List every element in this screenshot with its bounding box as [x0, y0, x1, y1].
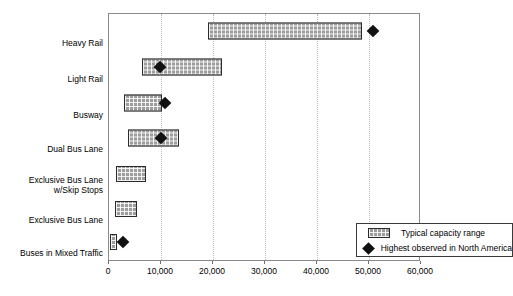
y-label-dual-bus-lane: Dual Bus Lane — [0, 144, 103, 154]
x-tick-30000 — [264, 261, 265, 264]
x-tick-label-40000: 40,000 — [303, 266, 329, 276]
x-tick-50000 — [368, 261, 369, 264]
bar-exclusive-bus-lane-skip-stops — [116, 166, 146, 182]
marker-buses-in-mixed-traffic — [117, 236, 130, 249]
x-tick-0 — [108, 261, 109, 264]
x-tick-label-50000: 50,000 — [355, 266, 381, 276]
gridline-40000 — [317, 14, 318, 260]
plot-area: Typical capacity range Highest observed … — [108, 13, 420, 261]
x-tick-label-20000: 20,000 — [199, 266, 225, 276]
legend-label-highest-observed: Highest observed in North America — [381, 243, 512, 253]
legend-item-typical-capacity-range: Typical capacity range — [357, 225, 512, 241]
bar-dual-bus-lane — [128, 130, 180, 147]
legend-swatch-wrap-range — [357, 228, 401, 238]
legend-label-typical-capacity-range: Typical capacity range — [401, 228, 485, 238]
bar-exclusive-bus-lane — [115, 201, 137, 217]
x-tick-label-10000: 10,000 — [147, 266, 173, 276]
x-axis: 0 10,000 20,000 30,000 40,000 50,000 60,… — [108, 261, 420, 291]
gridline-30000 — [265, 14, 266, 260]
y-label-buses-in-mixed-traffic: Buses in Mixed Traffic — [0, 248, 103, 258]
x-tick-60000 — [420, 261, 421, 264]
y-label-exclusive-bus-lane-skip-stops: Exclusive Bus Lane w/Skip Stops — [0, 175, 103, 195]
x-tick-20000 — [212, 261, 213, 264]
y-label-heavy-rail: Heavy Rail — [0, 38, 103, 48]
y-label-busway: Busway — [0, 110, 103, 120]
legend-swatch-wrap-marker — [357, 244, 381, 253]
bar-heavy-rail — [208, 23, 362, 40]
x-tick-label-30000: 30,000 — [251, 266, 277, 276]
gridline-20000 — [213, 14, 214, 260]
diamond-icon — [362, 242, 375, 255]
x-tick-label-0: 0 — [106, 266, 111, 276]
y-axis-labels: Heavy Rail Light Rail Busway Dual Bus La… — [0, 13, 103, 261]
x-tick-40000 — [316, 261, 317, 264]
legend-item-highest-observed: Highest observed in North America — [357, 240, 512, 256]
bar-busway — [124, 95, 162, 112]
x-tick-label-60000: 60,000 — [407, 266, 433, 276]
y-label-light-rail: Light Rail — [0, 74, 103, 84]
y-label-exclusive-bus-lane: Exclusive Bus Lane — [0, 215, 103, 225]
chart-legend: Typical capacity range Highest observed … — [356, 223, 513, 257]
x-tick-10000 — [160, 261, 161, 264]
hatched-box-icon — [368, 228, 390, 238]
